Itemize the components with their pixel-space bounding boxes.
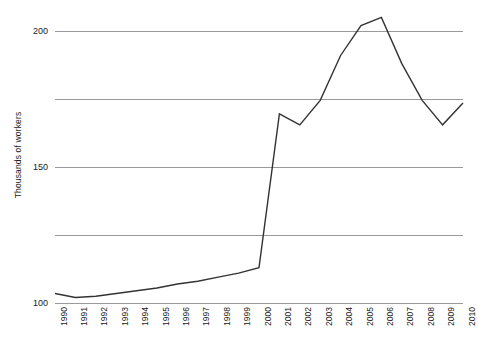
x-tick-label-1993: 1993 <box>120 307 130 326</box>
x-tick-label-text: 2003 <box>324 307 334 326</box>
x-tick-label-text: 1991 <box>79 307 89 326</box>
gridline-0: 0 <box>55 303 463 304</box>
x-tick-label-1990: 1990 <box>59 307 69 326</box>
x-tick-label-text: 1995 <box>161 307 171 326</box>
x-tick-label-text: 2010 <box>467 307 477 326</box>
x-tick-label-text: 2006 <box>385 307 395 326</box>
x-tick-label-text: 1997 <box>201 307 211 326</box>
x-tick-label-text: 1994 <box>140 307 150 326</box>
y-tick-label-100: 100 <box>33 298 48 308</box>
x-tick-label-1998: 1998 <box>222 307 232 326</box>
x-tick-label-1992: 1992 <box>99 307 109 326</box>
x-tick-label-text: 1999 <box>242 307 252 326</box>
x-tick-label-2005: 2005 <box>365 307 375 326</box>
line-chart: Thousands of workers 050100150200 199019… <box>0 0 478 348</box>
x-tick-label-2001: 2001 <box>283 307 293 326</box>
x-axis-tick-group: 1990199119921993199419951996199719981999… <box>55 307 463 348</box>
x-tick-label-1999: 1999 <box>242 307 252 326</box>
x-tick-label-2006: 2006 <box>385 307 395 326</box>
x-tick-label-text: 2002 <box>303 307 313 326</box>
x-tick-label-text: 2000 <box>263 307 273 326</box>
x-tick-label-text: 2009 <box>446 307 456 326</box>
x-tick-label-2010: 2010 <box>467 307 477 326</box>
x-tick-label-1994: 1994 <box>140 307 150 326</box>
x-tick-label-text: 2008 <box>426 307 436 326</box>
x-tick-label-text: 2005 <box>365 307 375 326</box>
y-tick-label-200: 200 <box>33 26 48 36</box>
x-tick-label-2009: 2009 <box>446 307 456 326</box>
x-tick-label-text: 1998 <box>222 307 232 326</box>
plot-area: 050100150200 <box>55 31 463 303</box>
data-series-line <box>55 0 463 303</box>
x-tick-label-1995: 1995 <box>161 307 171 326</box>
x-tick-label-text: 1992 <box>99 307 109 326</box>
x-tick-label-1996: 1996 <box>181 307 191 326</box>
x-tick-label-1997: 1997 <box>201 307 211 326</box>
x-tick-label-2008: 2008 <box>426 307 436 326</box>
x-tick-label-2003: 2003 <box>324 307 334 326</box>
x-tick-label-2002: 2002 <box>303 307 313 326</box>
x-tick-label-text: 2007 <box>405 307 415 326</box>
x-tick-label-2000: 2000 <box>263 307 273 326</box>
x-tick-label-2004: 2004 <box>344 307 354 326</box>
x-tick-label-text: 1990 <box>59 307 69 326</box>
x-tick-label-text: 1993 <box>120 307 130 326</box>
x-tick-label-2007: 2007 <box>405 307 415 326</box>
x-tick-label-text: 2004 <box>344 307 354 326</box>
x-tick-label-1991: 1991 <box>79 307 89 326</box>
x-tick-label-text: 1996 <box>181 307 191 326</box>
y-axis-title: Thousands of workers <box>13 112 23 199</box>
x-tick-label-text: 2001 <box>283 307 293 326</box>
y-tick-label-150: 150 <box>33 162 48 172</box>
series-polyline <box>55 17 463 297</box>
